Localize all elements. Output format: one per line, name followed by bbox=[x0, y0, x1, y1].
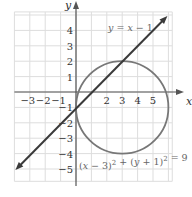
y-tick-label: 1 bbox=[67, 72, 73, 83]
circle-equation-label: (x − 3)2 + (y + 1)2 = 9 bbox=[79, 152, 188, 171]
x-tick-label: −3 bbox=[20, 95, 35, 106]
y-tick-label: −1 bbox=[58, 102, 73, 113]
x-tick-label: 3 bbox=[119, 95, 125, 106]
y-tick-label: −3 bbox=[58, 133, 73, 144]
y-tick-label: 2 bbox=[67, 56, 73, 67]
x-tick-label: −2 bbox=[36, 95, 51, 106]
y-tick-label: −5 bbox=[58, 164, 73, 175]
x-axis-label: x bbox=[186, 95, 192, 108]
graph-canvas: x y −3−2−123454321−1−2−3−4−5 y = x − 1 (… bbox=[0, 0, 192, 197]
y-tick-label: −4 bbox=[58, 149, 73, 160]
line-equation-label: y = x − 1 bbox=[107, 22, 153, 33]
y-axis-arrow-icon bbox=[73, 1, 79, 9]
y-tick-label: 3 bbox=[67, 41, 73, 52]
x-tick-label: 5 bbox=[150, 95, 156, 106]
x-tick-label: 2 bbox=[104, 95, 110, 106]
x-tick-label: 4 bbox=[134, 95, 140, 106]
y-tick-label: 4 bbox=[67, 25, 73, 36]
x-axis-arrow-icon bbox=[176, 89, 184, 95]
y-axis-label: y bbox=[64, 0, 72, 12]
